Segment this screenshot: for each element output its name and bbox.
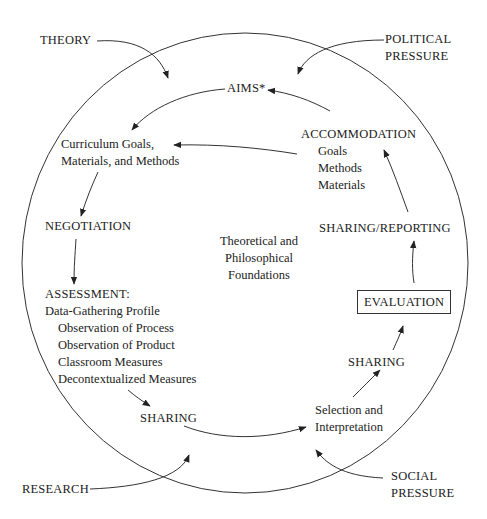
- sharing-node-1: SHARING: [140, 410, 197, 427]
- assessment-subheading: Data-Gathering Profile: [45, 303, 196, 320]
- social-pressure-arrow: [316, 450, 383, 478]
- accommodation-heading: ACCOMMODATION: [301, 126, 416, 143]
- curriculum-node: Curriculum Goals, Materials, and Methods: [61, 136, 179, 170]
- assessment-item: Decontextualized Measures: [45, 371, 196, 388]
- accommodation-to-curriculum-arrow: [174, 145, 297, 154]
- aims-to-curriculum-arrow: [132, 89, 225, 130]
- center-line-1: Theoretical and: [204, 233, 314, 250]
- theory-arrow: [97, 41, 168, 78]
- aims-node: AIMS*: [227, 80, 266, 97]
- political-pressure-line-2: PRESSURE: [385, 48, 451, 65]
- assessment-to-sharing-arrow: [128, 390, 150, 406]
- curriculum-line-2: Materials, and Methods: [61, 153, 179, 170]
- center-line-3: Foundations: [204, 267, 314, 284]
- sharing-to-evaluation-arrow: [393, 326, 403, 350]
- sharing-to-selection-arrow: [184, 426, 306, 437]
- assessment-item: Observation of Process: [45, 320, 196, 337]
- accommodation-item: Goals: [301, 143, 416, 160]
- social-pressure-line-1: SOCIAL: [391, 468, 454, 485]
- theory-label: THEORY: [40, 32, 91, 49]
- selection-interpretation-node: Selection and Interpretation: [315, 402, 383, 436]
- research-arrow: [90, 455, 189, 489]
- social-pressure-line-2: PRESSURE: [391, 485, 454, 502]
- research-label: RESEARCH: [22, 481, 89, 498]
- assessment-node: ASSESSMENT: Data-Gathering Profile Obser…: [45, 286, 196, 388]
- sharing-node-2: SHARING: [348, 354, 405, 371]
- center-line-2: Philosophical: [204, 250, 314, 267]
- selection-line-2: Interpretation: [315, 419, 383, 436]
- accommodation-item: Materials: [301, 177, 416, 194]
- negotiation-node: NEGOTIATION: [45, 218, 131, 235]
- political-pressure-line-1: POLITICAL: [385, 31, 451, 48]
- curriculum-to-negotiation-arrow: [81, 172, 98, 216]
- accommodation-to-aims-arrow: [268, 90, 330, 111]
- curriculum-line-1: Curriculum Goals,: [61, 136, 179, 153]
- selection-line-1: Selection and: [315, 402, 383, 419]
- center-foundations-label: Theoretical and Philosophical Foundation…: [204, 233, 314, 284]
- sharing-reporting-node: SHARING/REPORTING: [319, 220, 451, 237]
- selection-to-sharing-arrow: [353, 370, 380, 397]
- political-pressure-label: POLITICAL PRESSURE: [385, 31, 451, 65]
- political-pressure-arrow: [298, 40, 384, 74]
- accommodation-item: Methods: [301, 160, 416, 177]
- curriculum-cycle-diagram: THEORY POLITICAL PRESSURE RESEARCH SOCIA…: [0, 0, 487, 519]
- assessment-item: Observation of Product: [45, 337, 196, 354]
- social-pressure-label: SOCIAL PRESSURE: [391, 468, 454, 502]
- assessment-item: Classroom Measures: [45, 354, 196, 371]
- assessment-heading: ASSESSMENT:: [45, 286, 196, 303]
- evaluation-node: EVALUATION: [357, 290, 451, 314]
- accommodation-node: ACCOMMODATION Goals Methods Materials: [301, 126, 416, 194]
- negotiation-to-assessment-arrow: [74, 239, 76, 284]
- evaluation-to-reporting-arrow: [413, 241, 415, 283]
